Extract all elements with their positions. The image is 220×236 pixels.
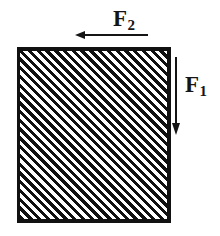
left-arrow-icon [74, 27, 150, 43]
force-label-f2-main: F [113, 6, 127, 31]
force-label-f2-sub: 2 [128, 17, 136, 33]
hatched-block [17, 47, 171, 223]
force-label-f1-main: F [185, 72, 199, 97]
down-arrow-icon [168, 55, 186, 137]
force-arrow-f2 [74, 27, 150, 43]
force-label-f1-sub: 1 [200, 83, 208, 99]
force-arrow-f1 [168, 55, 186, 137]
figure-canvas: F2 F1 [0, 0, 220, 236]
force-label-f2: F2 [113, 7, 135, 33]
force-label-f1: F1 [185, 73, 207, 99]
